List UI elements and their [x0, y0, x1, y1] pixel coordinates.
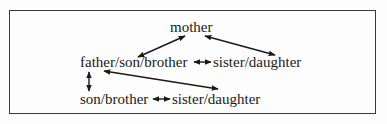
arrow-mother-sister — [205, 36, 275, 55]
relation-arrows — [0, 0, 387, 124]
kinship-diagram: mother father/son/brother sister/daughte… — [0, 0, 387, 124]
arrow-mother-father — [138, 36, 185, 57]
arrow-father-sister-bottom — [104, 71, 218, 89]
